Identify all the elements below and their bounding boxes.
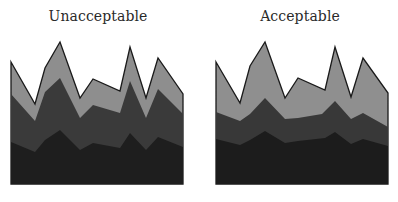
- charts-canvas: [0, 0, 398, 202]
- stacked-area-chart-acceptable: [216, 42, 388, 184]
- stacked-area-chart-unacceptable: [11, 42, 183, 184]
